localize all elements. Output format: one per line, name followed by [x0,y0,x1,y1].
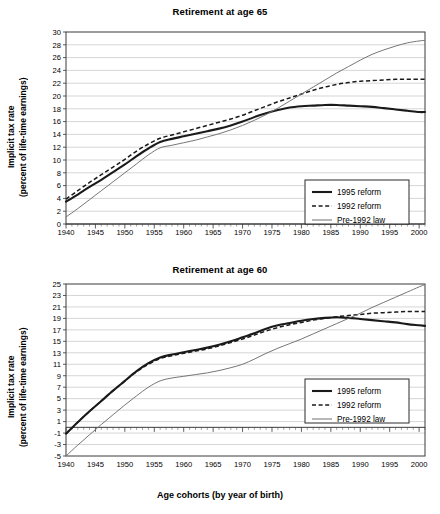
y-tick-label: 17 [53,326,61,335]
chart-panel-retirement-60: Retirement at age 60 Implicit tax rate (… [0,258,440,514]
x-tick-label: 1980 [293,228,310,237]
y-axis-title-top-2: (percent of life-time earnings) [18,44,29,230]
y-tick-label: 3 [57,406,61,415]
chart-svg-bottom: -5-3-11357911131517192123251940194519501… [0,258,440,490]
x-tick-label: 1960 [175,460,192,469]
legend-label: Pre-1992 law [337,216,385,225]
y-tick-label: 4 [57,194,61,203]
x-tick-label: 1945 [87,228,104,237]
legend-label: 1995 reform [337,387,381,396]
legend: 1995 reform1992 reformPre-1992 law [305,180,409,225]
y-tick-label: 11 [53,360,61,369]
y-tick-label: -1 [54,429,61,438]
y-tick-label: 19 [53,314,61,323]
x-tick-label: 1975 [264,228,281,237]
x-axis-title: Age cohorts (by year of birth) [0,490,440,500]
y-axis-title-text-top-2: (percent of life-time earnings) [18,77,28,197]
y-tick-label: 20 [53,92,61,101]
y-tick-label: 13 [53,349,61,358]
y-tick-label: 30 [53,28,61,37]
x-tick-label: 1965 [205,228,222,237]
chart-title-bottom: Retirement at age 60 [0,264,440,275]
y-tick-label: 15 [53,337,61,346]
chart-title-top: Retirement at age 65 [0,6,440,17]
x-tick-label: 2000 [411,228,428,237]
y-tick-label: 14 [53,130,61,139]
y-tick-label: 7 [57,383,61,392]
y-tick-label: 12 [53,143,61,152]
figure-root: Retirement at age 65 Implicit tax rate (… [0,0,440,514]
y-tick-label: 22 [53,79,61,88]
x-tick-label: 1950 [116,460,133,469]
x-tick-label: 1945 [87,460,104,469]
x-tick-label: 1980 [293,460,310,469]
y-axis-title-text-top: Implicit tax rate [6,106,16,168]
y-axis-title-bottom-2: (percent of life-time earnings) [18,294,29,480]
x-tick-label: 1985 [322,228,339,237]
x-tick-label: 1995 [381,228,398,237]
y-tick-label: 23 [53,291,61,300]
chart-panel-retirement-65: Retirement at age 65 Implicit tax rate (… [0,0,440,258]
legend-label: 1992 reform [337,401,381,410]
y-axis-title-top: Implicit tax rate [6,52,17,222]
x-tick-label: 1950 [116,228,133,237]
y-tick-label: 5 [57,394,61,403]
x-tick-label: 1995 [381,460,398,469]
y-tick-label: 10 [53,156,61,165]
x-tick-label: 1985 [322,460,339,469]
y-tick-label: 26 [53,53,61,62]
plot-frame [66,284,425,456]
y-tick-label: 24 [53,66,61,75]
y-tick-label: 18 [53,105,61,114]
x-tick-label: 1955 [146,460,163,469]
x-tick-label: 1975 [264,460,281,469]
x-tick-label: 1940 [58,228,75,237]
y-tick-label: 1 [57,417,61,426]
y-tick-label: 8 [57,169,61,178]
x-tick-label: 1960 [175,228,192,237]
x-tick-label: 1965 [205,460,222,469]
y-tick-label: -3 [54,440,61,449]
legend-label: Pre-1992 law [337,415,385,424]
y-axis-title-bottom: Implicit tax rate [6,302,17,472]
legend: 1995 reform1992 reformPre-1992 law [305,379,409,424]
x-tick-label: 2000 [411,460,428,469]
chart-svg-top: 0246810121416182022242628301940194519501… [0,0,440,258]
legend-label: 1995 reform [337,188,381,197]
y-tick-label: 2 [57,207,61,216]
x-tick-label: 1990 [352,228,369,237]
y-tick-label: 9 [57,372,61,381]
y-tick-label: 21 [53,303,61,312]
x-tick-label: 1940 [58,460,75,469]
y-tick-label: 28 [53,41,61,50]
x-tick-label: 1970 [234,228,251,237]
x-tick-label: 1955 [146,228,163,237]
x-tick-label: 1970 [234,460,251,469]
y-tick-label: 6 [57,181,61,190]
y-tick-label: 16 [53,117,61,126]
series-line-pre-1992-law [66,285,425,456]
y-tick-label: 25 [53,280,61,289]
y-axis-title-text-bottom-2: (percent of life-time earnings) [18,327,28,447]
y-axis-title-text-bottom: Implicit tax rate [6,356,16,418]
x-tick-label: 1990 [352,460,369,469]
legend-label: 1992 reform [337,202,381,211]
